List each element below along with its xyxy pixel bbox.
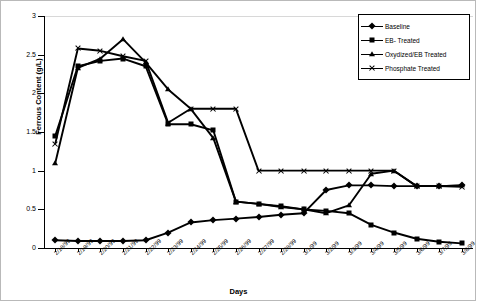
data-point-phosphate-treated [97,47,104,54]
legend-marker-diamond-icon [361,21,383,31]
data-point-oxydized-eb-treated [52,160,58,165]
data-point-phosphate-treated [187,105,194,112]
data-point-phosphate-treated [255,167,262,174]
data-point-eb-treated [211,128,216,133]
data-point-phosphate-treated [142,57,149,64]
data-point-phosphate-treated [368,167,375,174]
data-point-oxydized-eb-treated [301,207,307,212]
data-point-eb-treated [369,222,374,227]
data-point-phosphate-treated [232,105,239,112]
data-point-phosphate-treated [345,167,352,174]
data-point-phosphate-treated [278,167,285,174]
data-point-eb-treated [53,133,58,138]
data-point-oxydized-eb-treated [120,36,126,41]
y-axis-title: Ferrous Content (g/L) [34,37,43,157]
legend-label: Oxydized/EB Treated [385,51,446,58]
y-tick-label: 1 [0,167,40,174]
data-point-eb-treated [188,122,193,127]
data-point-eb-treated [391,230,396,235]
data-point-eb-treated [346,211,351,216]
legend-marker-triangle-icon [361,49,383,59]
data-point-phosphate-treated [300,167,307,174]
legend-item: Oxydized/EB Treated [361,47,466,61]
legend: BaselineEB- TreatedOxydized/EB TreatedPh… [358,14,470,80]
data-point-phosphate-treated [413,183,420,190]
data-point-oxydized-eb-treated [97,56,103,61]
data-point-phosphate-treated [120,53,127,60]
data-point-phosphate-treated [210,105,217,112]
data-point-oxydized-eb-treated [233,199,239,204]
data-point-eb-treated [414,236,419,241]
data-point-oxydized-eb-treated [346,203,352,208]
data-point-oxydized-eb-treated [256,201,262,206]
data-point-oxydized-eb-treated [278,204,284,209]
data-point-oxydized-eb-treated [210,135,216,140]
legend-label: Baseline [385,23,410,30]
legend-item: EB- Treated [361,33,466,47]
data-point-oxydized-eb-treated [75,65,81,70]
data-point-oxydized-eb-treated [165,87,171,92]
data-point-oxydized-eb-treated [323,210,329,215]
legend-marker-cross-icon [361,63,383,73]
data-point-phosphate-treated [323,167,330,174]
legend-label: Phosphate Treated [385,65,440,72]
legend-label: EB- Treated [385,37,420,44]
data-point-eb-treated [459,241,464,246]
y-tick-label: 3 [0,12,40,19]
data-point-phosphate-treated [74,45,81,52]
legend-item: Baseline [361,19,466,33]
data-point-phosphate-treated [390,167,397,174]
data-point-eb-treated [437,239,442,244]
data-point-phosphate-treated [436,183,443,190]
legend-item: Phosphate Treated [361,61,466,75]
y-tick-label: 0 [0,244,40,251]
x-axis-title: Days [0,287,477,296]
data-point-phosphate-treated [165,119,172,126]
data-point-phosphate-treated [458,183,465,190]
chart-figure: 00.511.522.53 2/18/992/19/992/20/992/21/… [0,0,477,302]
data-point-phosphate-treated [52,140,59,147]
y-tick-label: 0.5 [0,205,40,212]
legend-marker-square-icon [361,35,383,45]
